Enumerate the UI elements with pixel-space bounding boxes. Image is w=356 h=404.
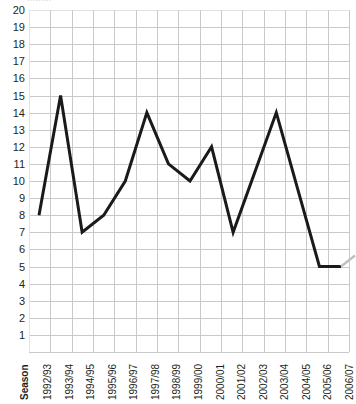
y-axis-tick-label: 2 [19,312,25,323]
x-axis-tick-label: 1996/97 [129,364,139,400]
y-axis-tick-label: 5 [19,261,25,272]
x-axis-tick-label: 2003/04 [280,364,290,400]
y-axis-tick-label: 8 [19,210,25,221]
x-axis-tick-label: 2005/06 [323,364,333,400]
x-axis-tick-label: 2006/07 [345,364,355,400]
y-axis-tick-label: 20 [13,5,25,16]
x-axis-tick-label: 1993/94 [65,364,75,400]
gridline-vertical [349,10,350,352]
y-axis-labels: 2019181716151413121110987654321 [0,0,29,404]
y-axis-tick-label: 16 [13,73,25,84]
x-axis-tick-label: 1997/98 [151,364,161,400]
y-axis-tick-label: 4 [19,278,25,289]
y-axis-tick-label: 18 [13,39,25,50]
x-axis-tick-label: 2002/03 [259,364,269,400]
x-axis-tick-label: 1999/00 [194,364,204,400]
x-axis-labels: Season1992/931993/941994/951995/961996/9… [0,352,356,404]
x-axis-tick-label: 1994/95 [86,364,96,400]
data-line-series [29,10,349,352]
y-axis-tick-label: 13 [13,124,25,135]
y-axis-tick-label: 7 [19,227,25,238]
x-axis-tick-label: 2004/05 [302,364,312,400]
y-axis-tick-label: 6 [19,244,25,255]
y-axis-tick-label: 3 [19,295,25,306]
y-axis-tick-label: 10 [13,176,25,187]
x-axis-tick-label: 1995/96 [108,364,118,400]
y-axis-tick-label: 19 [13,22,25,33]
x-axis-tick-label: 2001/02 [237,364,247,400]
chart-container: ········· 201918171615141312111098765432… [0,0,356,404]
y-axis-tick-label: 17 [13,56,25,67]
y-axis-tick-label: 14 [13,107,25,118]
y-axis-tick-label: 9 [19,193,25,204]
y-axis-tick-label: 12 [13,141,25,152]
x-axis-tick-label: 2000/01 [216,364,226,400]
x-axis-title: Season [20,364,30,400]
clipped-header-text: ········· [27,0,52,3]
x-axis-tick-label: 1992/93 [43,364,53,400]
y-axis-tick-label: 11 [14,158,25,169]
x-axis-tick-label: 1998/99 [172,364,182,400]
plot-area [29,10,349,352]
y-axis-tick-label: 15 [13,90,25,101]
y-axis-tick-label: 1 [19,329,25,340]
